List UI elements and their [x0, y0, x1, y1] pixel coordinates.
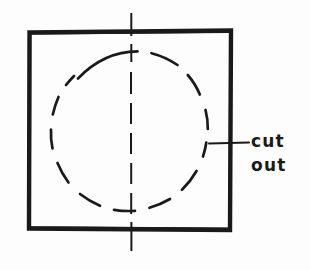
circle-arc-9 [80, 194, 100, 206]
square-bottom-edge [31, 228, 229, 229]
circle-arc-10 [58, 163, 69, 183]
annotation-label-cut: cut [251, 133, 285, 150]
square-outline [29, 31, 231, 231]
circle-arc-4 [206, 110, 208, 129]
circle-arc-7 [150, 199, 171, 208]
circle-arc-13 [66, 76, 74, 85]
annotation-label-out: out [251, 157, 287, 174]
diagram-canvas: cut out [0, 0, 310, 270]
circle-arc-11 [51, 130, 53, 149]
circle-arc-6 [182, 171, 197, 190]
cut-out-circle-shape [51, 51, 208, 211]
circle-arc-5 [203, 143, 206, 157]
circle-arc-2 [152, 53, 178, 65]
circle-arc-12 [53, 97, 59, 115]
leader-line [209, 143, 249, 144]
circle-arc-3 [188, 75, 200, 95]
circle-arc-1 [78, 51, 138, 78]
outer-square-shape [29, 31, 231, 231]
